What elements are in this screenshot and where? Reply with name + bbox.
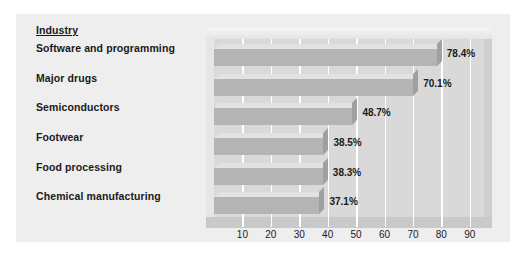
axis-tick [299,217,301,227]
category-label: Semiconductors [36,101,120,113]
gridline [441,39,443,217]
bar-front-face [214,168,323,185]
bar-value-label: 38.5% [333,137,361,148]
category-label: Major drugs [36,72,97,84]
axis-tick [441,217,443,227]
bar[interactable] [214,133,323,155]
axis-tick-label: 90 [460,229,480,240]
axis-tick-label: 80 [431,229,451,240]
bar-end-face [437,39,442,66]
bar-front-face [214,138,323,155]
plot-floor: 102030405060708090 [206,217,492,228]
bar-front-face [214,197,319,214]
bar-value-label: 70.1% [423,78,451,89]
plot-canvas [214,39,484,217]
axis-tick [470,217,472,227]
category-label: Food processing [36,161,122,173]
axis-tick-label: 60 [375,229,395,240]
bar[interactable] [214,163,323,185]
bar[interactable] [214,103,352,125]
bar-value-label: 48.7% [362,107,390,118]
axis-tick [271,217,273,227]
bar-end-face [413,69,418,96]
axis-tick [328,217,330,227]
bar[interactable] [214,74,413,96]
category-axis-header: Industry [36,24,78,36]
axis-tick-label: 40 [318,229,338,240]
plot-left-wall [206,39,214,228]
bar-value-label: 37.1% [329,196,357,207]
category-label-column: Industry Software and programmingMajor d… [36,22,204,234]
plot-area: 102030405060708090 78.4%70.1%48.7%38.5%3… [206,28,492,234]
chart-figure: Industry Software and programmingMajor d… [0,0,526,257]
axis-tick-label: 50 [346,229,366,240]
category-label: Chemical manufacturing [36,190,161,202]
axis-tick-label: 10 [232,229,252,240]
bar-front-face [214,49,437,66]
category-label: Footwear [36,131,83,143]
axis-tick-label: 30 [289,229,309,240]
bar-front-face [214,108,352,125]
axis-tick [242,217,244,227]
bar-end-face [319,187,324,214]
gridline [470,39,472,217]
axis-tick [413,217,415,227]
axis-tick-label: 20 [261,229,281,240]
axis-tick [356,217,358,227]
bar-end-face [323,158,328,185]
axis-tick [385,217,387,227]
axis-tick-label: 70 [403,229,423,240]
bar-front-face [214,79,413,96]
plot-top-face [206,28,492,39]
plot-right-wall [484,39,492,228]
bar[interactable] [214,44,437,66]
category-label: Software and programming [36,42,175,54]
bar-value-label: 78.4% [447,48,475,59]
bar[interactable] [214,192,319,214]
chart-panel: Industry Software and programmingMajor d… [16,14,510,242]
bar-value-label: 38.3% [333,167,361,178]
